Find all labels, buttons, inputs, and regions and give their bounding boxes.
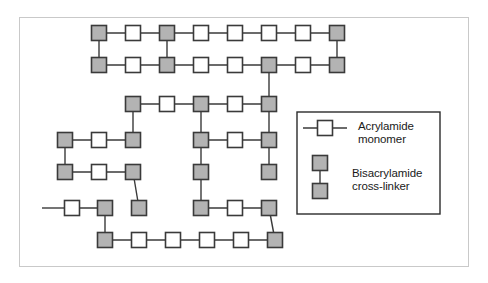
crosslinker-node	[194, 201, 209, 216]
monomer-node	[194, 58, 209, 73]
monomer-node	[296, 26, 311, 41]
crosslinker-node	[92, 26, 107, 41]
crosslinker-node	[58, 133, 73, 148]
crosslinker-node	[262, 97, 277, 112]
crosslinker-node	[268, 233, 283, 248]
crosslinker-node	[262, 133, 277, 148]
monomer-node	[228, 133, 243, 148]
gel-network-diagram	[0, 0, 488, 283]
monomer-node	[92, 165, 107, 180]
monomer-node	[65, 201, 80, 216]
crosslinker-node	[98, 233, 113, 248]
monomer-node	[228, 97, 243, 112]
legend-label-acrylamide: Acrylamide monomer	[358, 120, 414, 145]
bond-layer	[42, 33, 337, 240]
monomer-node	[228, 58, 243, 73]
legend-crosslinker-swatch-top	[313, 156, 328, 171]
crosslinker-node	[98, 201, 113, 216]
monomer-node	[126, 58, 141, 73]
legend-label-bisacrylamide: Bisacrylamide cross-linker	[352, 167, 422, 192]
monomer-node	[228, 26, 243, 41]
crosslinker-node	[126, 97, 141, 112]
monomer-node	[228, 201, 243, 216]
monomer-node	[262, 26, 277, 41]
crosslinker-node	[92, 58, 107, 73]
crosslinker-node	[262, 58, 277, 73]
crosslinker-node	[330, 58, 345, 73]
monomer-node	[234, 233, 249, 248]
monomer-node	[92, 133, 107, 148]
legend-crosslinker-swatch-bottom	[313, 184, 328, 199]
crosslinker-node	[126, 165, 141, 180]
monomer-node	[296, 58, 311, 73]
monomer-node	[126, 26, 141, 41]
figure-root: Acrylamide monomer Bisacrylamide cross-l…	[0, 0, 488, 283]
monomer-node	[194, 26, 209, 41]
crosslinker-node	[126, 133, 141, 148]
crosslinker-node	[160, 26, 175, 41]
crosslinker-node	[262, 201, 277, 216]
monomer-node	[200, 233, 215, 248]
crosslinker-node	[132, 201, 147, 216]
crosslinker-node	[194, 165, 209, 180]
crosslinker-node	[262, 165, 277, 180]
legend-monomer-swatch	[318, 121, 333, 136]
monomer-node	[166, 233, 181, 248]
crosslinker-node	[194, 97, 209, 112]
monomer-node	[132, 233, 147, 248]
crosslinker-node	[194, 133, 209, 148]
monomer-node	[160, 97, 175, 112]
crosslinker-node	[160, 58, 175, 73]
crosslinker-node	[58, 165, 73, 180]
crosslinker-node	[330, 26, 345, 41]
